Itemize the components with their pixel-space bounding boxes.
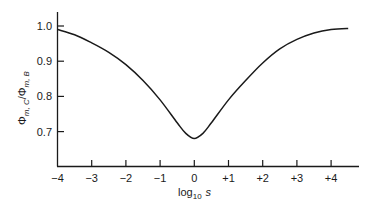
x-tick-label: −4 — [51, 172, 64, 184]
x-tick-label: −3 — [85, 172, 98, 184]
x-ticks: −4−3−2−10+1+2+3+4 — [51, 160, 337, 184]
y-ticks: 0.70.80.91.0 — [37, 20, 64, 138]
x-tick-label: −2 — [120, 172, 133, 184]
x-tick-label: +1 — [222, 172, 235, 184]
data-curve — [58, 29, 349, 139]
y-tick-label: 0.9 — [37, 55, 52, 67]
x-axis-label: log10s — [178, 186, 212, 201]
y-tick-label: 0.7 — [37, 126, 52, 138]
x-tick-label: +3 — [291, 172, 304, 184]
y-axis-label: Φm, C/Φm, B — [16, 70, 31, 125]
svg-text:Φm, C/Φm, B: Φm, C/Φm, B — [16, 70, 31, 125]
x-tick-label: +4 — [325, 172, 338, 184]
x-tick-label: 0 — [191, 172, 197, 184]
y-tick-label: 0.8 — [37, 90, 52, 102]
chart: 0.70.80.91.0 −4−3−2−10+1+2+3+4 log10s Φm… — [0, 0, 373, 206]
y-tick-label: 1.0 — [37, 20, 52, 32]
svg-text:log10s: log10s — [178, 186, 212, 201]
x-tick-label: −1 — [154, 172, 167, 184]
x-tick-label: +2 — [256, 172, 269, 184]
